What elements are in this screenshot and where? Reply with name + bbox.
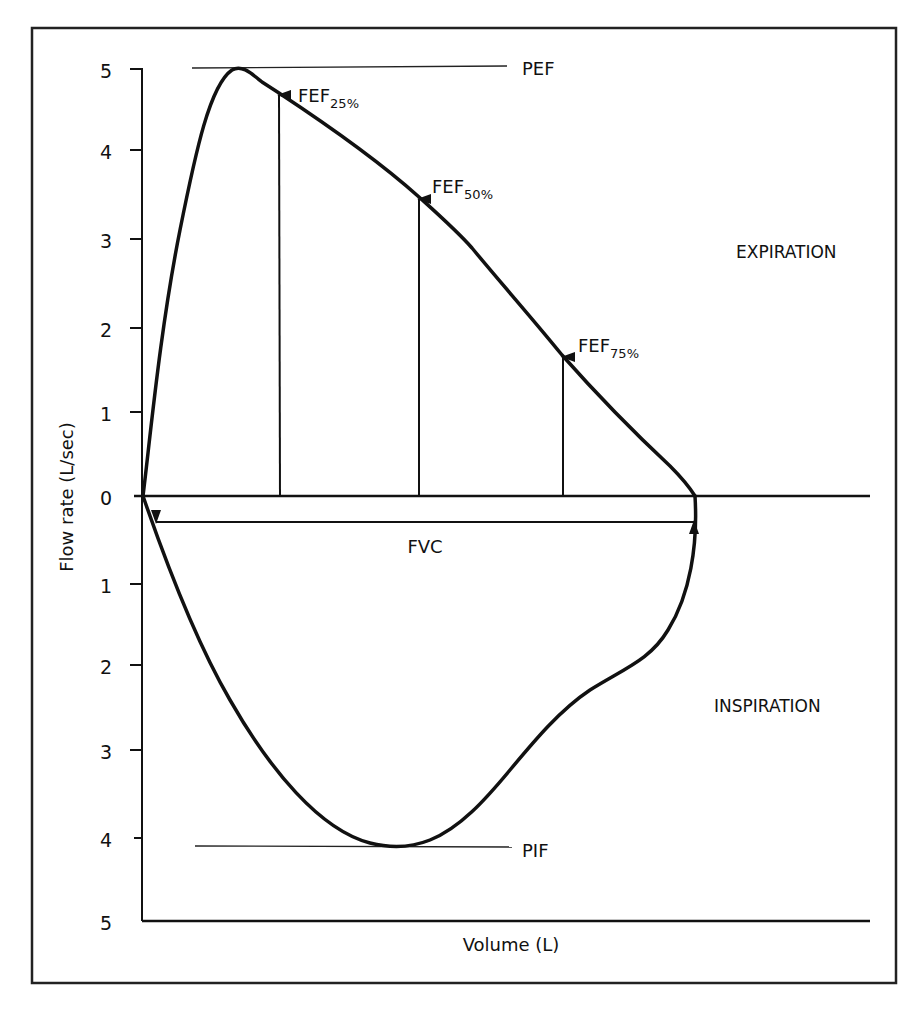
y-tick-label: 4 [100, 141, 112, 163]
expiration-label: EXPIRATION [736, 242, 837, 262]
y-tick-label: 0 [100, 487, 112, 509]
fef50-label: FEF50% [432, 176, 493, 202]
fef75-label: FEF75% [578, 335, 639, 361]
y-axis-label: Flow rate (L/sec) [56, 422, 77, 572]
flow-volume-chart: 5 4 3 2 1 0 1 2 3 4 5 Flow rate (L/sec) … [0, 0, 922, 1009]
pef-label: PEF [522, 58, 555, 79]
y-tick-label: 3 [100, 741, 112, 763]
y-tick-label: 5 [100, 60, 112, 82]
fvc-label: FVC [407, 536, 442, 557]
inspiration-label: INSPIRATION [714, 696, 821, 716]
y-tick-label: 3 [100, 230, 112, 252]
y-tick-label: 4 [100, 829, 112, 851]
fef25-label: FEF25% [298, 85, 359, 111]
y-tick-label: 1 [100, 403, 112, 425]
y-tick-label: 5 [100, 912, 112, 934]
y-tick-labels: 5 4 3 2 1 0 1 2 3 4 5 [100, 60, 112, 934]
y-tick-label: 1 [100, 575, 112, 597]
y-tick-label: 2 [100, 319, 112, 341]
x-axis-label: Volume (L) [463, 934, 560, 955]
fef25-arrow [279, 95, 280, 496]
y-ticks [130, 69, 142, 838]
pif-line [195, 846, 512, 847]
pif-label: PIF [522, 840, 549, 861]
y-tick-label: 2 [100, 656, 112, 678]
figure-frame [32, 28, 896, 983]
